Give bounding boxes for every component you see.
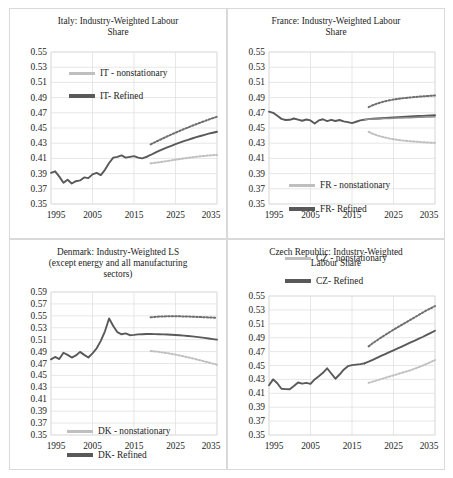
ytick-denmark-11: 0.37 (12, 418, 47, 428)
ytick-denmark-3: 0.53 (12, 323, 47, 333)
plot-area-italy: 0.550.530.510.490.470.450.430.410.390.37… (10, 9, 226, 238)
ytick-italy-2: 0.51 (12, 77, 47, 87)
xtick-italy-4: 2035 (202, 210, 221, 220)
ytick-france-2: 0.51 (230, 77, 265, 87)
xtick-czech-0: 1995 (265, 441, 284, 451)
ytick-czech-3: 0.49 (230, 333, 265, 343)
ytick-france-0: 0.55 (230, 47, 265, 57)
xtick-france-0: 1995 (265, 210, 284, 220)
legend-swatch-refined-icon (69, 94, 95, 98)
ytick-czech-0: 0.55 (230, 291, 265, 301)
xtick-france-3: 2025 (384, 210, 403, 220)
xtick-czech-1: 2005 (301, 441, 320, 451)
ytick-czech-6: 0.43 (230, 374, 265, 384)
ytick-france-3: 0.49 (230, 93, 265, 103)
ytick-denmark-0: 0.59 (12, 287, 47, 297)
ytick-italy-8: 0.39 (12, 169, 47, 179)
ytick-france-9: 0.37 (230, 184, 265, 194)
xtick-czech-3: 2025 (384, 441, 403, 451)
xtick-denmark-4: 2035 (202, 441, 221, 451)
legend-swatch-nonstationary-icon (289, 184, 315, 187)
ytick-france-4: 0.47 (230, 108, 265, 118)
legend-item-france-0: FR - nonstationary (289, 180, 390, 190)
ytick-denmark-4: 0.51 (12, 335, 47, 345)
ytick-italy-0: 0.55 (12, 47, 47, 57)
ytick-czech-9: 0.37 (230, 416, 265, 426)
ytick-italy-6: 0.43 (12, 138, 47, 148)
panel-italy: Italy: Industry-Weighted Labour Share 0.… (9, 8, 227, 239)
legend-label-italy-1: IT- Refined (100, 91, 143, 101)
legend-label-italy-0: IT - nonstationary (100, 68, 168, 78)
ytick-czech-8: 0.39 (230, 402, 265, 412)
legend-item-denmark-0: DK - nonstationary (67, 426, 170, 436)
ytick-france-1: 0.53 (230, 62, 265, 72)
legend-swatch-refined-icon (289, 207, 315, 211)
ytick-czech-10: 0.35 (230, 430, 265, 440)
ytick-italy-10: 0.35 (12, 199, 47, 209)
ytick-denmark-10: 0.39 (12, 406, 47, 416)
legend-label-czech-0: CZ - nonstationary (316, 253, 387, 263)
xtick-france-4: 2035 (420, 210, 439, 220)
ytick-france-6: 0.43 (230, 138, 265, 148)
ytick-denmark-7: 0.45 (12, 370, 47, 380)
ytick-denmark-2: 0.55 (12, 311, 47, 321)
ytick-france-5: 0.45 (230, 123, 265, 133)
ytick-czech-7: 0.41 (230, 388, 265, 398)
ytick-italy-7: 0.41 (12, 153, 47, 163)
legend-swatch-refined-icon (285, 279, 311, 283)
figure-multi-panel-labour-share: Italy: Industry-Weighted Labour Share 0.… (0, 0, 453, 478)
legend-item-france-1: FR- Refined (289, 204, 367, 214)
ytick-denmark-5: 0.49 (12, 347, 47, 357)
legend-label-france-1: FR- Refined (320, 204, 367, 214)
legend-item-czech-1: CZ- Refined (285, 276, 363, 286)
ytick-czech-4: 0.47 (230, 347, 265, 357)
panel-denmark: Denmark: Industry-Weighted LS (except en… (9, 239, 227, 470)
ytick-france-7: 0.41 (230, 153, 265, 163)
legend-item-italy-0: IT - nonstationary (69, 68, 168, 78)
legend-label-denmark-1: DK- Refined (98, 450, 147, 460)
plot-area-denmark: 0.590.570.550.530.510.490.470.450.430.41… (10, 240, 226, 469)
legend-swatch-nonstationary-icon (67, 430, 93, 433)
plot-area-france: 0.550.530.510.490.470.450.430.410.390.37… (228, 9, 444, 238)
xtick-italy-0: 1995 (47, 210, 66, 220)
xtick-italy-3: 2025 (166, 210, 185, 220)
ytick-denmark-9: 0.41 (12, 394, 47, 404)
ytick-italy-5: 0.45 (12, 123, 47, 133)
panel-france: France: Industry-Weighted Labour Share 0… (227, 8, 445, 239)
panel-czech: Czech Republic: Industry-Weighted Labour… (227, 239, 445, 470)
legend-label-denmark-0: DK - nonstationary (98, 426, 170, 436)
ytick-czech-1: 0.53 (230, 305, 265, 315)
xtick-denmark-0: 1995 (47, 441, 66, 451)
ytick-czech-5: 0.45 (230, 361, 265, 371)
plot-area-czech: 0.550.530.510.490.470.450.430.410.390.37… (228, 240, 444, 469)
legend-swatch-refined-icon (67, 453, 93, 457)
legend-label-france-0: FR - nonstationary (320, 180, 390, 190)
ytick-france-8: 0.39 (230, 169, 265, 179)
panel-grid: Italy: Industry-Weighted Labour Share 0.… (9, 8, 445, 470)
ytick-denmark-6: 0.47 (12, 359, 47, 369)
ytick-italy-9: 0.37 (12, 184, 47, 194)
legend-swatch-nonstationary-icon (69, 72, 95, 75)
xtick-italy-2: 2015 (125, 210, 144, 220)
ytick-italy-1: 0.53 (12, 62, 47, 72)
xtick-czech-2: 2015 (343, 441, 362, 451)
xtick-czech-4: 2035 (420, 441, 439, 451)
ytick-italy-3: 0.49 (12, 93, 47, 103)
ytick-italy-4: 0.47 (12, 108, 47, 118)
legend-swatch-nonstationary-icon (285, 257, 311, 260)
ytick-denmark-12: 0.35 (12, 430, 47, 440)
ytick-denmark-1: 0.57 (12, 299, 47, 309)
legend-item-czech-0: CZ - nonstationary (285, 253, 387, 263)
legend-item-denmark-1: DK- Refined (67, 450, 147, 460)
ytick-france-10: 0.35 (230, 199, 265, 209)
xtick-denmark-3: 2025 (166, 441, 185, 451)
legend-label-czech-1: CZ- Refined (316, 276, 363, 286)
ytick-denmark-8: 0.43 (12, 382, 47, 392)
xtick-italy-1: 2005 (83, 210, 102, 220)
legend-item-italy-1: IT- Refined (69, 91, 143, 101)
ytick-czech-2: 0.51 (230, 319, 265, 329)
